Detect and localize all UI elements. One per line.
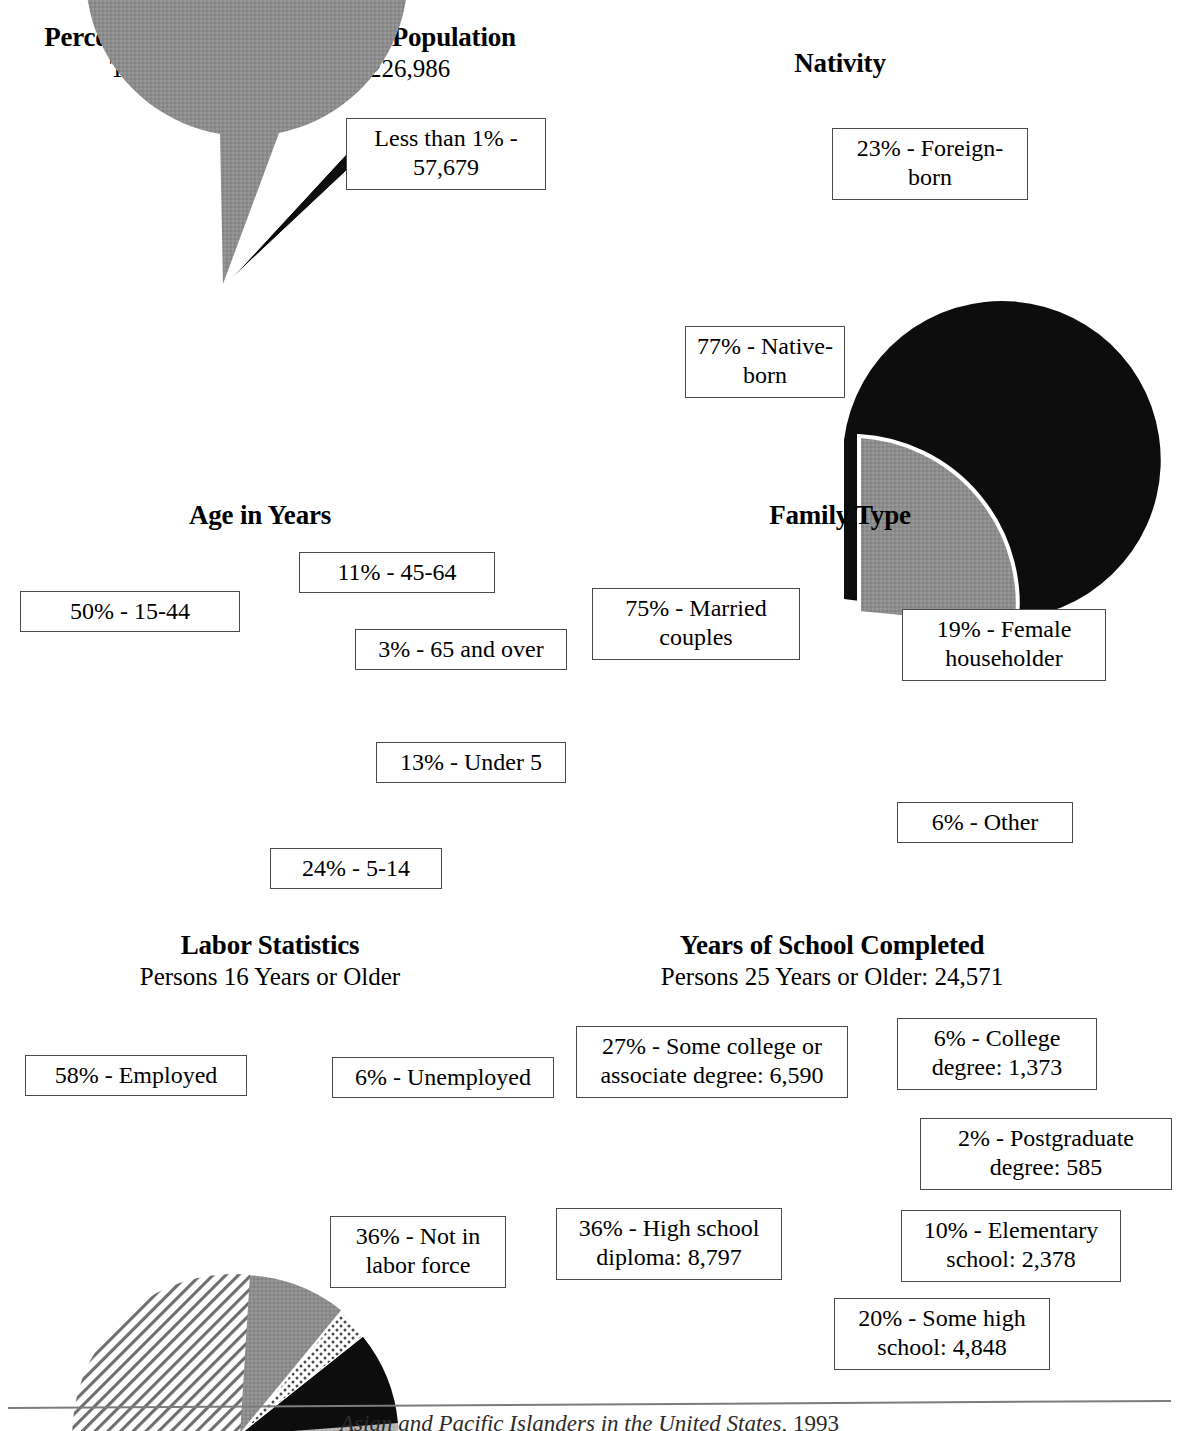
callout-line-2: school: 2,378 [911,1245,1111,1274]
callout-line-2: labor force [340,1251,496,1280]
callout-line-2: couples [602,623,790,652]
callout-line-1: 23% - Foreign- [842,134,1018,163]
callout-line-1: 6% - Unemployed [342,1063,544,1091]
footer-source: Asian and Pacific Islanders in the Unite… [0,1411,1179,1431]
chart-title-family-type: Family Type [660,500,1020,531]
callout-5-14[interactable]: 24% - 5-14 [270,848,442,889]
chart-title-education: Years of School Completed [592,930,1072,961]
chart-subtitle-education: Persons 25 Years or Older: 24,571 [592,963,1072,991]
callout-line-2: school: 4,848 [844,1333,1040,1362]
callout-line-2: born [695,361,835,390]
callout-less-than-1-percent[interactable]: Less than 1% - 57,679 [346,118,546,190]
chart-title-age: Age in Years [40,500,480,531]
chart-title-nativity: Nativity [640,48,1040,79]
callout-line-2: householder [912,644,1096,673]
callout-line-1: 27% - Some college or [586,1032,838,1061]
callout-native-born[interactable]: 77% - Native- born [685,326,845,398]
callout-line-1: 2% - Postgraduate [930,1124,1162,1153]
callout-line-1: Less than 1% - [356,124,536,153]
chart-panel-family-type: Family Type [660,500,1020,531]
callout-line-1: 11% - 45-64 [309,558,485,586]
footer-source-italic: Asian and Pacific Islanders in the Unite… [340,1411,787,1431]
callout-line-2: associate degree: 6,590 [586,1061,838,1090]
callout-line-1: 6% - College [907,1024,1087,1053]
callout-line-1: 24% - 5-14 [280,854,432,882]
callout-line-1: 13% - Under 5 [386,748,556,776]
callout-not-in-labor-force[interactable]: 36% - Not in labor force [330,1216,506,1288]
chart-subtitle-labor: Persons 16 Years or Older [70,963,470,991]
pie-svg-total-population [48,112,388,442]
chart-panel-labor: Labor Statistics Persons 16 Years or Old… [70,930,470,991]
callout-line-2: degree: 585 [930,1153,1162,1182]
callout-college-degree[interactable]: 6% - College degree: 1,373 [897,1018,1097,1090]
callout-line-2: born [842,163,1018,192]
callout-15-44[interactable]: 50% - 15-44 [20,591,240,632]
callout-45-64[interactable]: 11% - 45-64 [299,552,495,593]
callout-elementary-school[interactable]: 10% - Elementary school: 2,378 [901,1210,1121,1282]
callout-female-householder[interactable]: 19% - Female householder [902,609,1106,681]
callout-line-1: 3% - 65 and over [365,635,557,663]
callout-line-1: 50% - 15-44 [30,597,230,625]
callout-line-1: 36% - High school [566,1214,772,1243]
callout-line-1: 19% - Female [912,615,1096,644]
callout-line-1: 10% - Elementary [911,1216,1111,1245]
callout-line-1: 77% - Native- [695,332,835,361]
footer-source-year: 1993 [793,1411,839,1431]
callout-line-2: 57,679 [356,153,536,182]
callout-high-school-diploma[interactable]: 36% - High school diploma: 8,797 [556,1208,782,1280]
callout-employed[interactable]: 58% - Employed [25,1055,247,1096]
callout-line-1: 20% - Some high [844,1304,1040,1333]
chart-panel-age: Age in Years [40,500,480,531]
callout-line-2: degree: 1,373 [907,1053,1087,1082]
chart-panel-education: Years of School Completed Persons 25 Yea… [592,930,1072,991]
chart-panel-nativity: Nativity [640,48,1040,79]
callout-unemployed[interactable]: 6% - Unemployed [332,1057,554,1098]
callout-line-1: 58% - Employed [35,1061,237,1089]
callout-line-1: 75% - Married [602,594,790,623]
callout-married-couples[interactable]: 75% - Married couples [592,588,800,660]
callout-postgraduate-degree[interactable]: 2% - Postgraduate degree: 585 [920,1118,1172,1190]
callout-other[interactable]: 6% - Other [897,802,1073,843]
callout-line-2: diploma: 8,797 [566,1243,772,1272]
callout-65-and-over[interactable]: 3% - 65 and over [355,629,567,670]
callout-some-high-school[interactable]: 20% - Some high school: 4,848 [834,1298,1050,1370]
callout-line-1: 36% - Not in [340,1222,496,1251]
callout-line-1: 6% - Other [907,808,1063,836]
callout-under-5[interactable]: 13% - Under 5 [376,742,566,783]
callout-foreign-born[interactable]: 23% - Foreign- born [832,128,1028,200]
callout-some-college[interactable]: 27% - Some college or associate degree: … [576,1026,848,1098]
chart-title-labor: Labor Statistics [70,930,470,961]
